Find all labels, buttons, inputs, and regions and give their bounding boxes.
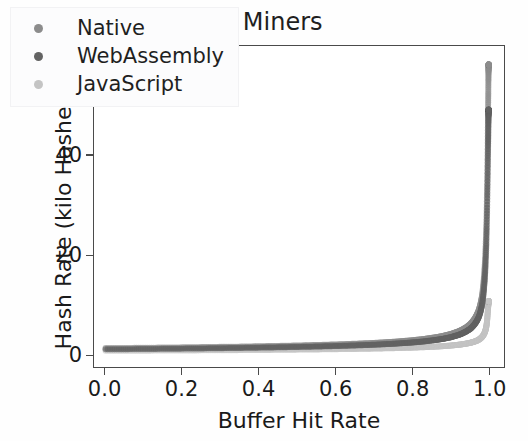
x-tick-label: 0.8 <box>396 377 429 401</box>
legend-item-native[interactable]: Native <box>21 14 224 42</box>
legend-item-javascript[interactable]: JavaScript <box>21 70 224 98</box>
figure-canvas: All Miners Hash Rate (kilo Hashes/s) Buf… <box>0 0 528 441</box>
x-axis-label: Buffer Hit Rate <box>93 408 505 433</box>
x-tick-label: 0.4 <box>242 377 275 401</box>
legend-label-native: Native <box>77 18 145 39</box>
x-tick-mark <box>335 368 337 375</box>
y-tick-label: 20 <box>55 243 82 267</box>
legend-marker-native <box>34 24 43 33</box>
y-tick-mark <box>86 355 93 357</box>
y-tick-label: 0 <box>69 343 82 367</box>
x-tick-mark <box>489 368 491 375</box>
y-tick-label: 40 <box>55 143 82 167</box>
x-tick-mark <box>181 368 183 375</box>
x-tick-label: 1.0 <box>473 377 506 401</box>
legend-marker-javascript <box>34 80 43 89</box>
legend-label-javascript: JavaScript <box>77 74 182 95</box>
legend: Native WebAssembly JavaScript <box>10 7 239 107</box>
x-tick-label: 0.0 <box>88 377 121 401</box>
x-tick-mark <box>412 368 414 375</box>
x-tick-label: 0.6 <box>319 377 352 401</box>
series-webassembly <box>103 107 492 353</box>
y-tick-mark <box>86 154 93 156</box>
x-tick-label: 0.2 <box>165 377 198 401</box>
x-tick-mark <box>258 368 260 375</box>
x-tick-mark <box>104 368 106 375</box>
legend-marker-webassembly <box>34 52 43 61</box>
y-tick-mark <box>86 255 93 257</box>
legend-item-webassembly[interactable]: WebAssembly <box>21 42 224 70</box>
legend-label-webassembly: WebAssembly <box>77 46 224 67</box>
